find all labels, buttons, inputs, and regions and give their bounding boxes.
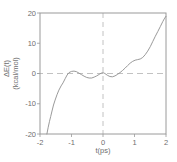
- energy-gap-curve: [47, 16, 166, 134]
- y-axis-tick-label: 10: [28, 39, 36, 48]
- y-axis-title-units: (kcal/mol): [11, 57, 20, 90]
- y-axis-title: ΔE(t): [2, 59, 11, 77]
- x-axis-tick-label: 1: [132, 138, 136, 147]
- y-axis-tick-label: 0: [32, 69, 36, 78]
- energy-gap-figure: -2-101220100-10-20t(ps)ΔE(t)(kcal/mol): [0, 0, 177, 162]
- x-axis-tick-label: 2: [164, 138, 168, 147]
- y-axis-tick-label: -10: [25, 99, 36, 108]
- x-axis-tick-label: -2: [37, 138, 44, 147]
- chart-canvas: -2-101220100-10-20t(ps)ΔE(t)(kcal/mol): [0, 0, 177, 162]
- y-axis-tick-label: -20: [25, 130, 36, 139]
- x-axis-tick-label: -1: [68, 138, 75, 147]
- x-axis-title: t(ps): [96, 146, 112, 155]
- y-axis-tick-label: 20: [28, 9, 36, 18]
